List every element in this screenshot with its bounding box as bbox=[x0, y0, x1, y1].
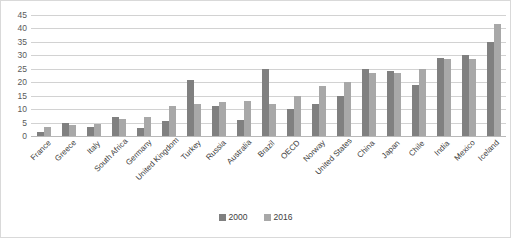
bar-2000-chile bbox=[412, 85, 419, 136]
bar-2016-united-states bbox=[344, 82, 351, 136]
bar-2000-united-states bbox=[337, 96, 344, 136]
bar-group bbox=[56, 15, 81, 136]
bar-group bbox=[306, 15, 331, 136]
bar-2016-mexico bbox=[469, 59, 476, 136]
y-axis-tick-label: 25 bbox=[1, 65, 27, 73]
legend-label: 2016 bbox=[274, 213, 293, 222]
bar-2016-japan bbox=[394, 73, 401, 136]
bar-2000-russia bbox=[212, 106, 219, 136]
y-axis-tick-label: 10 bbox=[1, 105, 27, 113]
bar-2000-brazil bbox=[262, 69, 269, 136]
bar-2000-italy bbox=[87, 127, 94, 136]
bars-layer bbox=[31, 15, 506, 136]
y-axis-tick-label: 35 bbox=[1, 38, 27, 46]
bar-2000-mexico bbox=[462, 55, 469, 136]
x-axis-tick-label: India bbox=[432, 139, 451, 158]
bar-chart-figure: 454035302520151050 FranceGreeceItalySout… bbox=[0, 0, 511, 238]
bar-group bbox=[481, 15, 506, 136]
x-axis-tick: Greece bbox=[56, 137, 81, 199]
x-axis-tick: Iceland bbox=[479, 137, 504, 199]
bar-2016-iceland bbox=[494, 24, 501, 136]
x-axis-tick: Turkey bbox=[180, 137, 205, 199]
bar-2000-greece bbox=[62, 123, 69, 136]
bar-group bbox=[431, 15, 456, 136]
y-axis-tick-label: 15 bbox=[1, 92, 27, 100]
y-axis-tick-label: 30 bbox=[1, 51, 27, 59]
bar-group bbox=[456, 15, 481, 136]
bar-2016-south-africa bbox=[119, 119, 126, 136]
x-axis-tick-label: France bbox=[29, 138, 53, 162]
bar-2000-australia bbox=[237, 120, 244, 136]
x-axis-tick: OECD bbox=[280, 137, 305, 199]
bar-2000-japan bbox=[387, 71, 394, 136]
x-axis-tick-label: Russia bbox=[204, 138, 228, 162]
x-axis-tick: Russia bbox=[205, 137, 230, 199]
bar-group bbox=[31, 15, 56, 136]
x-axis-tick-label: Chile bbox=[407, 139, 426, 158]
bar-2000-france bbox=[37, 132, 44, 136]
chart-legend: 20002016 bbox=[1, 213, 510, 222]
bar-2000-turkey bbox=[187, 80, 194, 136]
bar-2000-united-kingdom bbox=[162, 121, 169, 136]
legend-entry[interactable]: 2016 bbox=[264, 213, 293, 222]
bar-2000-south-africa bbox=[112, 117, 119, 136]
legend-label: 2000 bbox=[229, 213, 248, 222]
bar-2016-united-kingdom bbox=[169, 106, 176, 136]
x-axis-tick-label: Turkey bbox=[179, 138, 202, 161]
x-axis-tick: Japan bbox=[379, 137, 404, 199]
x-axis: FranceGreeceItalySouth AfricaGermanyUnit… bbox=[31, 137, 504, 199]
x-axis-tick: Chile bbox=[404, 137, 429, 199]
bar-2016-turkey bbox=[194, 104, 201, 136]
bar-group bbox=[106, 15, 131, 136]
x-axis-tick: Mexico bbox=[454, 137, 479, 199]
y-axis-tick-label: 0 bbox=[1, 132, 27, 140]
x-axis-tick-label: Brazil bbox=[256, 139, 277, 160]
y-axis-tick-label: 5 bbox=[1, 119, 27, 127]
bar-2000-norway bbox=[312, 104, 319, 136]
bar-2000-oecd bbox=[287, 109, 294, 136]
x-axis-tick: India bbox=[429, 137, 454, 199]
bar-group bbox=[81, 15, 106, 136]
bar-group bbox=[206, 15, 231, 136]
bar-2016-germany bbox=[144, 117, 151, 136]
bar-group bbox=[406, 15, 431, 136]
x-axis-tick-label: Italy bbox=[86, 139, 103, 156]
bar-2000-china bbox=[362, 69, 369, 136]
x-axis-tick: United States bbox=[330, 137, 355, 199]
y-axis: 454035302520151050 bbox=[1, 15, 27, 136]
bar-2016-australia bbox=[244, 101, 251, 136]
x-axis-tick-label: Japan bbox=[380, 139, 402, 161]
x-axis-tick: South Africa bbox=[106, 137, 131, 199]
bar-2016-greece bbox=[69, 125, 76, 136]
bar-group bbox=[156, 15, 181, 136]
x-axis-tick-label: Iceland bbox=[477, 138, 502, 163]
bar-group bbox=[381, 15, 406, 136]
bar-2000-iceland bbox=[487, 42, 494, 136]
bar-2016-italy bbox=[94, 124, 101, 136]
legend-swatch-icon bbox=[219, 214, 226, 221]
plot-wrapper: 454035302520151050 bbox=[1, 1, 511, 141]
bar-2016-china bbox=[369, 73, 376, 136]
bar-group bbox=[131, 15, 156, 136]
x-axis-tick: United Kingdom bbox=[155, 137, 180, 199]
bar-group bbox=[231, 15, 256, 136]
bar-2016-oecd bbox=[294, 96, 301, 136]
y-axis-tick-label: 45 bbox=[1, 11, 27, 19]
x-axis-tick: Australia bbox=[230, 137, 255, 199]
x-axis-tick: France bbox=[31, 137, 56, 199]
bar-2016-norway bbox=[319, 86, 326, 136]
x-axis-tick-label: Greece bbox=[53, 138, 78, 163]
y-axis-tick-label: 20 bbox=[1, 78, 27, 86]
bar-group bbox=[356, 15, 381, 136]
bar-2016-russia bbox=[219, 102, 226, 136]
legend-swatch-icon bbox=[264, 214, 271, 221]
x-axis-tick: Brazil bbox=[255, 137, 280, 199]
x-axis-tick-label: OECD bbox=[279, 138, 302, 161]
x-axis-tick-label: China bbox=[355, 139, 376, 160]
legend-entry[interactable]: 2000 bbox=[219, 213, 248, 222]
x-axis-tick-label: Mexico bbox=[452, 138, 476, 162]
bar-group bbox=[256, 15, 281, 136]
x-axis-tick: China bbox=[355, 137, 380, 199]
bar-2000-germany bbox=[137, 128, 144, 136]
bar-2016-chile bbox=[419, 69, 426, 136]
